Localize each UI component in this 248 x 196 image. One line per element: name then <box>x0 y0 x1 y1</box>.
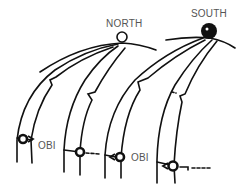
pair-4-inner-strand <box>174 41 217 183</box>
obi-node-1-icon <box>19 135 27 143</box>
south-pole-highlight <box>206 28 209 31</box>
chromosome-diagram <box>0 0 248 196</box>
obi-node-3-icon <box>116 153 124 161</box>
pair-4-outer-strand <box>157 40 212 183</box>
south-pole-icon <box>201 23 217 39</box>
diagram-canvas: NORTH SOUTH OBI OBI <box>0 0 248 196</box>
obi-node-2-icon <box>76 148 84 156</box>
obi-node-4-icon <box>169 162 178 171</box>
obi-connector-2-dash <box>86 153 100 154</box>
obi-connector-4-tail <box>180 167 188 170</box>
north-pole-icon <box>117 32 127 42</box>
pair-1-outer-strand <box>17 44 118 162</box>
pair-4-kink-dash <box>172 92 176 93</box>
